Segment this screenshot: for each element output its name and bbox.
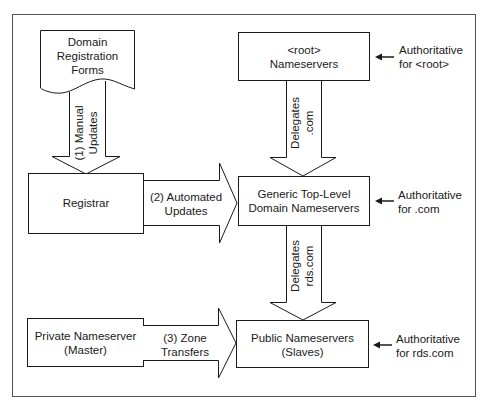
annotation-root: Authoritative for <root> <box>399 43 463 71</box>
zone-transfers-line1: (3) Zone <box>146 331 224 345</box>
gtld-nameservers-line2: Domain Nameservers <box>238 201 370 215</box>
delegates-rds-line1: Delegates <box>288 227 302 305</box>
annotation-com-line2: for .com <box>398 202 462 216</box>
annotation-arrow-com <box>375 198 394 205</box>
delegates-com-line1: Delegates <box>288 84 302 162</box>
annotation-root-line2: for <root> <box>399 57 463 71</box>
automated-updates-label: (2) Automated Updates <box>146 190 226 218</box>
forms-label-line2: Registration <box>40 49 135 63</box>
delegates-rds-label: Delegates rds.com <box>288 227 318 305</box>
root-nameservers-line2: Nameservers <box>238 57 370 71</box>
dns-delegation-diagram: Domain Registration Forms (1) Manual Upd… <box>0 0 492 407</box>
zone-transfers-line2: Transfers <box>146 345 224 359</box>
registrar-label: Registrar <box>28 196 144 210</box>
annotation-rds: Authoritative for rds.com <box>396 332 460 360</box>
forms-label-line1: Domain <box>40 35 135 49</box>
annotation-com-line1: Authoritative <box>398 188 462 202</box>
forms-label: Domain Registration Forms <box>40 35 135 77</box>
gtld-nameservers-line1: Generic Top-Level <box>238 187 370 201</box>
root-nameservers-line1: <root> <box>238 43 370 57</box>
annotation-arrow-rds <box>373 342 392 349</box>
annotation-root-line1: Authoritative <box>399 43 463 57</box>
public-nameservers-line2: (Slaves) <box>236 345 369 359</box>
manual-updates-label: (1) Manual Updates <box>72 93 102 173</box>
delegates-rds-line2: rds.com <box>302 227 316 305</box>
private-nameserver-line2: (Master) <box>27 343 144 357</box>
forms-label-line3: Forms <box>40 63 135 77</box>
annotation-arrow-root <box>375 54 394 61</box>
annotation-rds-line1: Authoritative <box>396 332 460 346</box>
delegates-com-line2: .com <box>302 84 316 162</box>
public-nameservers-line1: Public Nameservers <box>236 331 369 345</box>
zone-transfers-label: (3) Zone Transfers <box>146 331 224 359</box>
public-nameservers-label: Public Nameservers (Slaves) <box>236 331 369 359</box>
annotation-com: Authoritative for .com <box>398 188 462 216</box>
automated-updates-line1: (2) Automated <box>146 190 226 204</box>
root-nameservers-label: <root> Nameservers <box>238 43 370 71</box>
private-nameserver-label: Private Nameserver (Master) <box>27 329 144 357</box>
manual-updates-line1: (1) Manual <box>72 93 86 173</box>
delegates-com-label: Delegates .com <box>288 84 318 162</box>
gtld-nameservers-label: Generic Top-Level Domain Nameservers <box>238 187 370 215</box>
annotation-rds-line2: for rds.com <box>396 346 460 360</box>
manual-updates-line2: Updates <box>86 93 100 173</box>
automated-updates-line2: Updates <box>146 204 226 218</box>
private-nameserver-line1: Private Nameserver <box>27 329 144 343</box>
